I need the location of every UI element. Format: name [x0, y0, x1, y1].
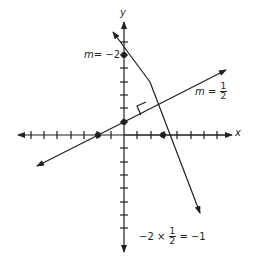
fraction-one-half: 12 — [169, 227, 177, 246]
x-axis-label: x — [235, 127, 241, 138]
slope-label-shallow: m = 12 — [195, 82, 227, 101]
graph-canvas — [0, 0, 255, 256]
slope-label-steep: m= −2 — [84, 49, 120, 60]
fraction-one-half: 12 — [220, 82, 228, 101]
perpendicular-lines-diagram: y x m= −2 m = 12 −2 × 12 = −1 — [0, 0, 255, 256]
y-axis-label: y — [120, 7, 126, 18]
product-equation: −2 × 12 = −1 — [139, 227, 206, 246]
